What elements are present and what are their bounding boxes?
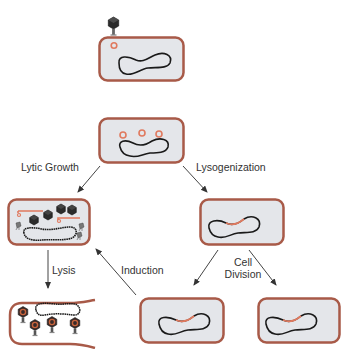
phage-attached-icon xyxy=(108,17,118,35)
cell-lytic-replication xyxy=(9,200,90,245)
cell-lysogen xyxy=(201,200,284,245)
cell-daughter-1 xyxy=(141,299,224,343)
cell-lysis xyxy=(10,300,95,348)
label-lysogenization: Lysogenization xyxy=(196,161,266,173)
label-cell-division: Cell Division xyxy=(218,256,268,280)
cell-infection xyxy=(100,38,184,81)
label-cell-division-line1: Cell xyxy=(218,256,268,268)
arrow-lytic-growth xyxy=(78,166,100,192)
label-cell-division-line2: Division xyxy=(218,268,268,280)
label-lytic-growth: Lytic Growth xyxy=(21,161,79,173)
label-induction: Induction xyxy=(121,264,164,276)
cell-daughter-2 xyxy=(259,299,340,343)
arrow-division-left xyxy=(194,250,218,285)
cell-phage-dna xyxy=(100,119,184,163)
phage-life-cycle-diagram xyxy=(0,0,341,349)
label-lysis: Lysis xyxy=(52,264,76,276)
